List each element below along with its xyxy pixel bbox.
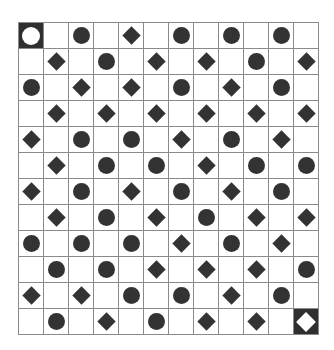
board-cell-r3-c7[interactable] bbox=[193, 100, 218, 126]
board-cell-r4-c10[interactable] bbox=[268, 126, 293, 152]
board-cell-r5-c6[interactable] bbox=[168, 152, 193, 178]
end-cell[interactable] bbox=[293, 308, 318, 334]
board-cell-r4-c5[interactable] bbox=[143, 126, 168, 152]
board-cell-r3-c11[interactable] bbox=[293, 100, 318, 126]
board-cell-r8-c2[interactable] bbox=[68, 230, 93, 256]
board-cell-r3-c5[interactable] bbox=[143, 100, 168, 126]
board-cell-r11-c3[interactable] bbox=[93, 308, 118, 334]
board-cell-r10-c2[interactable] bbox=[68, 282, 93, 308]
board-cell-r1-c8[interactable] bbox=[218, 48, 243, 74]
board-cell-r7-c8[interactable] bbox=[218, 204, 243, 230]
board-cell-r1-c7[interactable] bbox=[193, 48, 218, 74]
board-cell-r0-c7[interactable] bbox=[193, 22, 218, 48]
board-cell-r8-c6[interactable] bbox=[168, 230, 193, 256]
board-cell-r2-c6[interactable] bbox=[168, 74, 193, 100]
board-cell-r8-c10[interactable] bbox=[268, 230, 293, 256]
board-cell-r3-c0[interactable] bbox=[18, 100, 43, 126]
board-cell-r3-c4[interactable] bbox=[118, 100, 143, 126]
board-cell-r10-c4[interactable] bbox=[118, 282, 143, 308]
board-cell-r10-c8[interactable] bbox=[218, 282, 243, 308]
board-cell-r8-c4[interactable] bbox=[118, 230, 143, 256]
board-cell-r9-c9[interactable] bbox=[243, 256, 268, 282]
board-cell-r10-c0[interactable] bbox=[18, 282, 43, 308]
board-cell-r7-c11[interactable] bbox=[293, 204, 318, 230]
board-cell-r4-c7[interactable] bbox=[193, 126, 218, 152]
board-cell-r6-c6[interactable] bbox=[168, 178, 193, 204]
board-cell-r11-c6[interactable] bbox=[168, 308, 193, 334]
board-cell-r7-c6[interactable] bbox=[168, 204, 193, 230]
board-cell-r11-c9[interactable] bbox=[243, 308, 268, 334]
board-cell-r7-c5[interactable] bbox=[143, 204, 168, 230]
board-cell-r1-c2[interactable] bbox=[68, 48, 93, 74]
board-cell-r6-c9[interactable] bbox=[243, 178, 268, 204]
board-cell-r6-c5[interactable] bbox=[143, 178, 168, 204]
board-cell-r5-c7[interactable] bbox=[193, 152, 218, 178]
board-cell-r2-c2[interactable] bbox=[68, 74, 93, 100]
board-cell-r1-c1[interactable] bbox=[43, 48, 68, 74]
board-cell-r0-c9[interactable] bbox=[243, 22, 268, 48]
board-cell-r10-c11[interactable] bbox=[293, 282, 318, 308]
board-cell-r3-c3[interactable] bbox=[93, 100, 118, 126]
board-cell-r7-c3[interactable] bbox=[93, 204, 118, 230]
board-cell-r4-c11[interactable] bbox=[293, 126, 318, 152]
board-cell-r7-c1[interactable] bbox=[43, 204, 68, 230]
board-cell-r10-c10[interactable] bbox=[268, 282, 293, 308]
board-cell-r1-c4[interactable] bbox=[118, 48, 143, 74]
board-cell-r0-c6[interactable] bbox=[168, 22, 193, 48]
board-cell-r10-c3[interactable] bbox=[93, 282, 118, 308]
board-cell-r10-c9[interactable] bbox=[243, 282, 268, 308]
board-cell-r7-c4[interactable] bbox=[118, 204, 143, 230]
board-cell-r0-c8[interactable] bbox=[218, 22, 243, 48]
board-cell-r11-c1[interactable] bbox=[43, 308, 68, 334]
board-cell-r0-c5[interactable] bbox=[143, 22, 168, 48]
board-cell-r9-c4[interactable] bbox=[118, 256, 143, 282]
board-cell-r11-c5[interactable] bbox=[143, 308, 168, 334]
board-cell-r11-c10[interactable] bbox=[268, 308, 293, 334]
board-cell-r3-c2[interactable] bbox=[68, 100, 93, 126]
board-cell-r5-c9[interactable] bbox=[243, 152, 268, 178]
board-cell-r5-c11[interactable] bbox=[293, 152, 318, 178]
board-cell-r4-c0[interactable] bbox=[18, 126, 43, 152]
board-cell-r8-c11[interactable] bbox=[293, 230, 318, 256]
board-cell-r9-c3[interactable] bbox=[93, 256, 118, 282]
board-cell-r6-c8[interactable] bbox=[218, 178, 243, 204]
board-cell-r4-c2[interactable] bbox=[68, 126, 93, 152]
board-cell-r1-c3[interactable] bbox=[93, 48, 118, 74]
board-cell-r10-c1[interactable] bbox=[43, 282, 68, 308]
board-cell-r2-c3[interactable] bbox=[93, 74, 118, 100]
board-cell-r7-c10[interactable] bbox=[268, 204, 293, 230]
board-cell-r8-c0[interactable] bbox=[18, 230, 43, 256]
board-cell-r2-c4[interactable] bbox=[118, 74, 143, 100]
board-cell-r11-c2[interactable] bbox=[68, 308, 93, 334]
board-cell-r9-c1[interactable] bbox=[43, 256, 68, 282]
board-cell-r9-c8[interactable] bbox=[218, 256, 243, 282]
board-cell-r0-c1[interactable] bbox=[43, 22, 68, 48]
board-cell-r5-c1[interactable] bbox=[43, 152, 68, 178]
board-cell-r6-c2[interactable] bbox=[68, 178, 93, 204]
board-cell-r2-c11[interactable] bbox=[293, 74, 318, 100]
board-cell-r5-c5[interactable] bbox=[143, 152, 168, 178]
board-cell-r5-c0[interactable] bbox=[18, 152, 43, 178]
board-cell-r1-c10[interactable] bbox=[268, 48, 293, 74]
board-cell-r5-c4[interactable] bbox=[118, 152, 143, 178]
board-cell-r4-c8[interactable] bbox=[218, 126, 243, 152]
board-cell-r8-c3[interactable] bbox=[93, 230, 118, 256]
board-cell-r1-c9[interactable] bbox=[243, 48, 268, 74]
board-cell-r10-c7[interactable] bbox=[193, 282, 218, 308]
board-cell-r2-c0[interactable] bbox=[18, 74, 43, 100]
board-cell-r5-c3[interactable] bbox=[93, 152, 118, 178]
board-cell-r6-c3[interactable] bbox=[93, 178, 118, 204]
board-cell-r11-c7[interactable] bbox=[193, 308, 218, 334]
board-cell-r9-c5[interactable] bbox=[143, 256, 168, 282]
board-cell-r0-c10[interactable] bbox=[268, 22, 293, 48]
board-cell-r7-c2[interactable] bbox=[68, 204, 93, 230]
board-cell-r1-c6[interactable] bbox=[168, 48, 193, 74]
board-cell-r1-c5[interactable] bbox=[143, 48, 168, 74]
board-cell-r6-c7[interactable] bbox=[193, 178, 218, 204]
board-cell-r0-c4[interactable] bbox=[118, 22, 143, 48]
board-cell-r4-c9[interactable] bbox=[243, 126, 268, 152]
board-cell-r0-c2[interactable] bbox=[68, 22, 93, 48]
board-cell-r10-c6[interactable] bbox=[168, 282, 193, 308]
board-cell-r3-c1[interactable] bbox=[43, 100, 68, 126]
start-cell[interactable] bbox=[18, 22, 43, 48]
